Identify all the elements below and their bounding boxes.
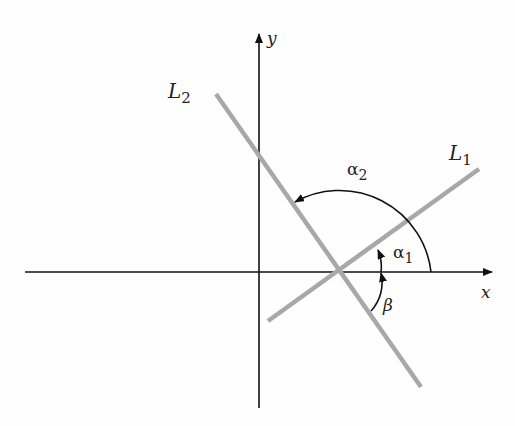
y-axis-label: y — [266, 28, 277, 48]
angle-between-lines-diagram: y x L2 L1 α2 α1 β — [0, 0, 515, 426]
beta-arc — [371, 273, 382, 311]
x-axis-label: x — [481, 282, 491, 302]
beta-label: β — [382, 295, 393, 315]
alpha1-arc — [378, 250, 381, 272]
line-l1 — [268, 169, 479, 321]
line-l2-label: L2 — [167, 79, 191, 107]
alpha1-label: α1 — [393, 242, 413, 266]
line-l2 — [216, 94, 421, 387]
alpha2-label: α2 — [347, 159, 367, 183]
line-l1-label: L1 — [448, 141, 472, 169]
